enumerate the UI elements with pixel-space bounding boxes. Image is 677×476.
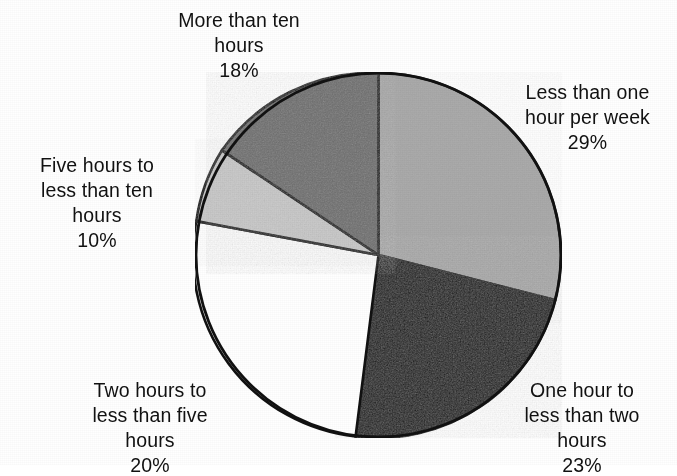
slice-label-more-than-ten-hours: More than ten hours 18% bbox=[141, 8, 337, 83]
slice-label-line-3: hours bbox=[8, 203, 186, 228]
slice-label-percent: 23% bbox=[486, 453, 677, 476]
slice-label-one-to-two-hours: One hour to less than two hours 23% bbox=[486, 378, 677, 476]
slice-label-percent: 29% bbox=[498, 130, 677, 155]
slice-label-line-1: One hour to bbox=[486, 378, 677, 403]
slice-label-line-2: less than ten bbox=[8, 178, 186, 203]
slice-label-line-1: Less than one bbox=[498, 80, 677, 105]
slice-label-percent: 18% bbox=[141, 58, 337, 83]
slice-label-line-1: Five hours to bbox=[8, 153, 186, 178]
slice-label-two-to-five-hours: Two hours to less than five hours 20% bbox=[48, 378, 252, 476]
slice-label-percent: 20% bbox=[48, 453, 252, 476]
slice-label-five-to-ten-hours: Five hours to less than ten hours 10% bbox=[8, 153, 186, 253]
slice-label-line-1: Two hours to bbox=[48, 378, 252, 403]
slice-label-line-1: More than ten bbox=[141, 8, 337, 33]
slice-label-line-3: hours bbox=[48, 428, 252, 453]
slice-label-line-2: less than two bbox=[486, 403, 677, 428]
slice-label-line-2: hours bbox=[141, 33, 337, 58]
slice-label-line-2: less than five bbox=[48, 403, 252, 428]
slice-label-percent: 10% bbox=[8, 228, 186, 253]
slice-label-line-2: hour per week bbox=[498, 105, 677, 130]
slice-label-less-than-one-hour: Less than one hour per week 29% bbox=[498, 80, 677, 155]
slice-label-line-3: hours bbox=[486, 428, 677, 453]
